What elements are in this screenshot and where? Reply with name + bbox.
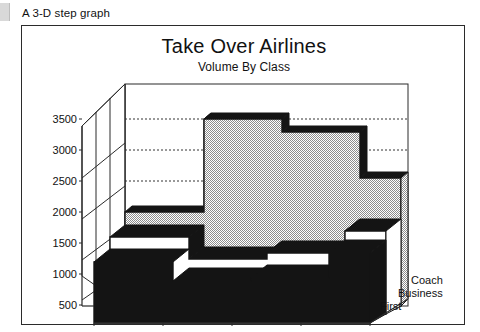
page-edge-artifact xyxy=(0,3,10,21)
legend-label-business: Business xyxy=(398,287,443,299)
figure-root: A 3-D step graph Take Over Airlines Volu… xyxy=(0,0,480,332)
y-tick-label: 500 xyxy=(59,299,77,311)
step-chart-plot: 3500 3000 2500 2000 1500 1000 500 xyxy=(22,26,466,326)
y-axis-ticks: 3500 3000 2500 2000 1500 1000 500 xyxy=(53,113,82,311)
y-tick-label: 3000 xyxy=(53,144,77,156)
y-tick-label: 2500 xyxy=(53,175,77,187)
legend-label-first: First xyxy=(380,300,401,312)
y-tick-label: 1500 xyxy=(53,237,77,249)
y-tick-label: 2000 xyxy=(53,206,77,218)
figure-caption: A 3-D step graph xyxy=(22,7,110,19)
legend-label-coach: Coach xyxy=(411,274,443,286)
y-tick-label: 1000 xyxy=(53,268,77,280)
chart-frame: Take Over Airlines Volume By Class xyxy=(21,25,465,325)
y-tick-label: 3500 xyxy=(53,113,77,125)
